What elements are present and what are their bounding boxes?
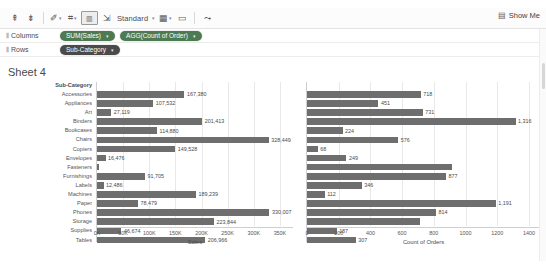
bar-mark[interactable] <box>97 127 157 134</box>
bar-mark[interactable] <box>97 218 214 225</box>
bar-mark[interactable] <box>97 118 202 125</box>
bar-row[interactable]: 1,191 <box>307 199 540 208</box>
bar-row[interactable]: 201,413 <box>97 117 293 126</box>
bar-row[interactable]: 224 <box>307 126 540 135</box>
bar-mark[interactable] <box>307 91 421 98</box>
bar-row[interactable] <box>307 163 540 172</box>
bar-mark[interactable] <box>97 109 111 116</box>
cell-size-icon[interactable]: ▦▾ <box>158 10 173 26</box>
fit-select[interactable]: Standard ▾ <box>115 11 157 25</box>
bar-row[interactable]: 16,476 <box>97 154 293 163</box>
bar-row[interactable]: 114,880 <box>97 126 293 135</box>
vertical-scrollbar[interactable] <box>542 63 545 89</box>
share-icon[interactable]: ⤳ <box>200 10 214 26</box>
show-mark-labels-icon[interactable]: ▥ <box>81 11 98 25</box>
bar-mark[interactable] <box>97 155 106 162</box>
category-label[interactable]: Bookcases <box>20 126 92 135</box>
bar-row[interactable]: 189,239 <box>97 190 293 199</box>
category-label[interactable]: Appliances <box>20 99 92 108</box>
bar-row[interactable]: 330,007 <box>97 208 293 217</box>
show-me-button[interactable]: ▤ Show Me <box>498 11 540 20</box>
bar-row[interactable]: 12,486 <box>97 181 293 190</box>
bar-row[interactable]: 167,380 <box>97 90 293 99</box>
bar-mark[interactable] <box>97 91 184 98</box>
category-label[interactable]: Supplies <box>20 226 92 235</box>
bar-row[interactable]: 814 <box>307 208 540 217</box>
category-label[interactable]: Labels <box>20 181 92 190</box>
bar-mark[interactable] <box>97 164 99 171</box>
rows-shelf[interactable]: ⦀ Rows Sub-Category ▾ <box>0 43 546 57</box>
bar-mark[interactable] <box>97 191 196 198</box>
bar-row[interactable]: 27,119 <box>97 108 293 117</box>
bar-mark[interactable] <box>97 200 138 207</box>
bar-mark[interactable] <box>97 173 145 180</box>
bar-row[interactable]: 328,449 <box>97 135 293 144</box>
bar-row[interactable] <box>97 163 293 172</box>
category-label[interactable]: Phones <box>20 208 92 217</box>
bar-mark[interactable] <box>97 137 269 144</box>
category-label[interactable]: Chairs <box>20 135 92 144</box>
chevron-down-icon[interactable]: ▾ <box>106 31 109 41</box>
chevron-down-icon[interactable]: ▾ <box>111 45 114 55</box>
bar-mark[interactable] <box>307 209 436 216</box>
bar-row[interactable]: 223,844 <box>97 217 293 226</box>
pill-agg-count-of-order[interactable]: AGG(Count of Order) ▾ <box>120 31 202 41</box>
bar-row[interactable]: 877 <box>307 172 540 181</box>
bar-mark[interactable] <box>307 146 318 153</box>
bar-row[interactable]: 107,532 <box>97 99 293 108</box>
bar-value-label: 27,119 <box>111 109 130 116</box>
bar-mark[interactable] <box>307 118 516 125</box>
category-label[interactable]: Machines <box>20 190 92 199</box>
fit-axis-icon[interactable]: ▭ <box>175 10 189 26</box>
category-label[interactable]: Copiers <box>20 145 92 154</box>
category-label[interactable]: Accessories <box>20 90 92 99</box>
bar-row[interactable] <box>307 217 540 226</box>
bar-row[interactable]: 576 <box>307 135 540 144</box>
pill-sum-sales[interactable]: SUM(Sales) ▾ <box>60 31 115 41</box>
category-label[interactable]: Art <box>20 108 92 117</box>
bar-mark[interactable] <box>307 109 423 116</box>
axis-tick-label: 350K <box>274 230 287 236</box>
bar-mark[interactable] <box>307 137 398 144</box>
chevron-down-icon[interactable]: ▾ <box>193 31 196 41</box>
bar-row[interactable]: 451 <box>307 99 540 108</box>
category-label[interactable]: Paper <box>20 199 92 208</box>
columns-shelf[interactable]: ⦀ Columns SUM(Sales) ▾ AGG(Count of Orde… <box>0 29 546 43</box>
bar-row[interactable]: 1,316 <box>307 117 540 126</box>
bar-row[interactable]: 149,528 <box>97 145 293 154</box>
bar-mark[interactable] <box>307 164 452 171</box>
sort-descending-icon[interactable]: ⇟ <box>24 10 38 26</box>
highlight-icon[interactable]: ✐▾ <box>49 10 63 26</box>
bar-row[interactable]: 112 <box>307 190 540 199</box>
bar-mark[interactable] <box>307 182 362 189</box>
bar-mark[interactable] <box>97 146 175 153</box>
bar-mark[interactable] <box>307 100 378 107</box>
pill-sub-category[interactable]: Sub-Category ▾ <box>60 45 120 55</box>
bar-row[interactable]: 91,705 <box>97 172 293 181</box>
x-axis-title-sales: Sales <box>97 239 293 245</box>
bar-row[interactable]: 78,479 <box>97 199 293 208</box>
bar-mark[interactable] <box>307 127 343 134</box>
bar-mark[interactable] <box>97 209 269 216</box>
category-label[interactable]: Tables <box>20 236 92 245</box>
bar-row[interactable]: 731 <box>307 108 540 117</box>
category-label[interactable]: Binders <box>20 117 92 126</box>
bar-mark[interactable] <box>307 173 446 180</box>
bar-row[interactable]: 249 <box>307 154 540 163</box>
bar-row[interactable]: 68 <box>307 145 540 154</box>
bar-mark[interactable] <box>307 155 346 162</box>
sort-ascending-icon[interactable]: ⇞ <box>8 10 22 26</box>
category-label[interactable]: Envelopes <box>20 154 92 163</box>
bar-mark[interactable] <box>97 100 153 107</box>
category-label[interactable]: Fasteners <box>20 163 92 172</box>
bar-mark[interactable] <box>307 218 420 225</box>
bar-mark[interactable] <box>307 191 325 198</box>
fix-axes-icon[interactable]: ⇲ <box>100 10 114 26</box>
group-members-icon[interactable]: ⌗▾ <box>65 10 79 26</box>
category-label[interactable]: Storage <box>20 217 92 226</box>
bar-row[interactable]: 346 <box>307 181 540 190</box>
bar-mark[interactable] <box>307 200 496 207</box>
category-label[interactable]: Furnishings <box>20 172 92 181</box>
bar-row[interactable]: 718 <box>307 90 540 99</box>
bar-value-label: 167,380 <box>184 91 206 98</box>
